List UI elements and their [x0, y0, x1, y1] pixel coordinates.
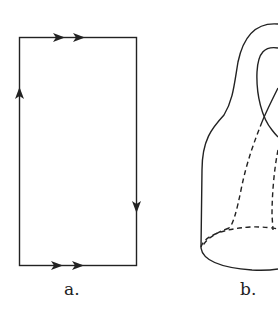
panel-b-hidden-lines — [201, 122, 278, 247]
panel-a-label: a. — [64, 279, 80, 299]
panel-b-label: b. — [240, 279, 256, 299]
panel-b-klein-bottle — [201, 24, 278, 270]
panel-a-rectangle — [20, 38, 137, 266]
figure-canvas — [0, 0, 278, 318]
